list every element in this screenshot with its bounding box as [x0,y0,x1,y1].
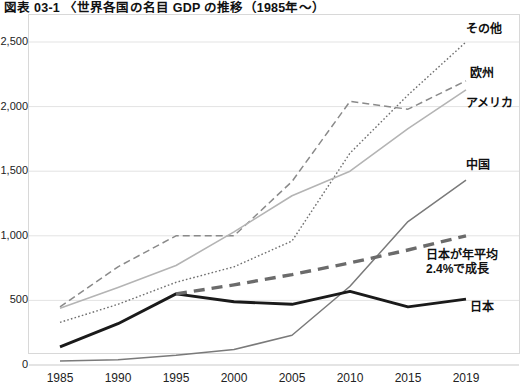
x-tick-label: 1990 [88,372,148,384]
series-label-other: その他 [466,22,502,36]
chart-canvas [0,0,524,392]
series-line-アメリカ [60,90,466,308]
series-line-欧州 [60,81,466,307]
y-tick-label: 2,500 [0,36,28,47]
y-tick-label: 1,500 [0,165,28,176]
x-tick-label: 2000 [204,372,264,384]
y-tick-label: 1,000 [0,230,28,241]
x-tick-label: 2005 [262,372,322,384]
x-tick-label: 2019 [436,372,496,384]
y-tick-label: 0 [0,359,28,370]
annotation-japan-growth: 日本が年平均2.4%で成長 [426,248,498,276]
series-line-日本 [60,291,466,347]
series-label-china: 中国 [466,158,490,172]
x-tick-label: 1995 [146,372,206,384]
x-tick-label: 2010 [320,372,380,384]
series-label-europe: 欧州 [470,66,494,80]
annotation-line-1: 日本が年平均 [426,248,498,262]
series-line-日本が年平均2.4%で成長 [176,236,466,294]
series-paths [60,42,466,361]
annotation-line-2: 2.4%で成長 [426,262,498,276]
x-tick-label: 2015 [378,372,438,384]
y-tick-label: 2,000 [0,101,28,112]
series-label-america: アメリカ [466,96,513,110]
x-tick-label: 1985 [30,372,90,384]
y-tick-label: 500 [0,294,28,305]
series-label-japan: 日本 [470,300,494,314]
series-line-その他 [60,42,466,322]
series-line-中国 [60,180,466,361]
